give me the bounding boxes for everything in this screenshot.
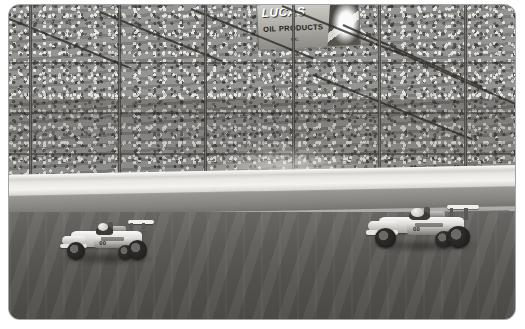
fence-pole [378,5,381,187]
car-number: 00 [413,226,420,232]
driver-helmet [411,208,424,217]
front-tire [67,242,85,260]
race-car-leading: 00 [62,214,151,260]
fence-rail [9,112,515,114]
race-photograph: LUCAS OIL PRODUCTS INC. [9,5,515,319]
rear-wing-post [464,208,468,221]
fence-pole [118,5,121,187]
rear-tire [447,226,470,247]
race-car-chasing: 00 [368,198,474,247]
car-number: 00 [99,240,106,246]
driver-helmet [98,223,109,231]
front-tire [375,228,396,247]
fence-pole [29,5,32,187]
fence-rail [9,62,515,64]
fence-pole [464,5,467,187]
rear-tire [128,240,147,260]
rear-wing-post [142,223,146,235]
photo-frame: LUCAS OIL PRODUCTS INC. [0,0,525,329]
